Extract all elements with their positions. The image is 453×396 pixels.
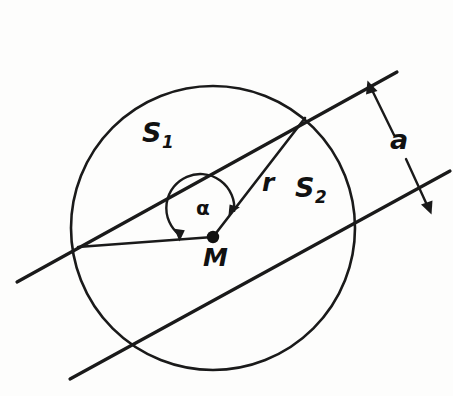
dimension-leader-lower (406, 159, 427, 205)
label-center-point: M (203, 243, 228, 272)
label-region-s1-subscript: 1 (162, 132, 174, 152)
label-radius: r (262, 168, 274, 197)
radius-segment (213, 118, 305, 237)
label-region-s1: S1 (142, 117, 173, 148)
geometry-diagram: S1 S2 r a M α (0, 0, 453, 396)
secant-line-lower (70, 171, 450, 379)
center-point-marker (207, 231, 219, 243)
label-region-s2-base: S (295, 172, 314, 203)
label-region-s2: S2 (295, 172, 326, 203)
label-region-s2-subscript: 2 (315, 187, 327, 207)
diagram-canvas (0, 0, 453, 396)
dimension-arrow-lower (421, 201, 433, 215)
label-angle-alpha: α (196, 196, 210, 220)
label-distance: a (390, 124, 408, 155)
label-region-s1-base: S (142, 117, 161, 148)
